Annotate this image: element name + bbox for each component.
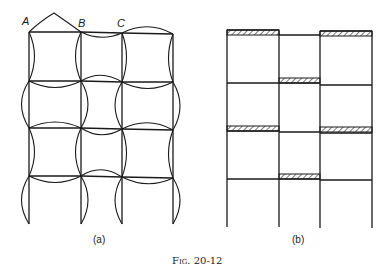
- panel-a-frame: [29, 32, 173, 224]
- panel-a-label: (a): [93, 234, 105, 245]
- node-label-b: B: [78, 17, 85, 29]
- panel-b-label: (b): [292, 234, 304, 245]
- figure-caption: Fig. 20-12: [172, 255, 222, 266]
- panel-a-deflection-curves: [22, 13, 181, 224]
- node-label-a: A: [22, 15, 29, 27]
- panel-b-hatched-beams: [227, 30, 372, 179]
- figure-canvas: [0, 0, 391, 276]
- node-label-c: C: [117, 17, 125, 29]
